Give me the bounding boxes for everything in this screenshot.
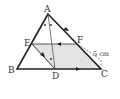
label-e: E: [24, 38, 31, 48]
measurement-label: 5 cm: [93, 50, 109, 58]
label-c: C: [101, 69, 108, 79]
label-b: B: [8, 65, 15, 75]
geometry-diagram: A B C D E F 5 cm: [0, 0, 120, 99]
angle-mark-dot: [50, 24, 52, 26]
angle-mark-dot: [44, 24, 46, 26]
label-a: A: [43, 4, 51, 14]
label-d: D: [52, 71, 59, 81]
label-f: F: [77, 35, 83, 45]
shaded-region-efcd: [32, 44, 101, 69]
angle-mark-dot: [50, 58, 52, 60]
